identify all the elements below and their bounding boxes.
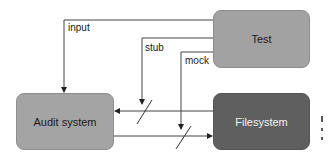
test-node-label: Test xyxy=(251,33,271,45)
test-node: Test xyxy=(213,10,310,68)
audit-system-node-label: Audit system xyxy=(34,116,97,128)
stub-edge-label: stub xyxy=(145,42,164,53)
audit-system-node: Audit system xyxy=(16,93,114,150)
audit-to-fs-break-slash xyxy=(176,126,191,149)
cropped-edge-artifact xyxy=(321,116,323,146)
filesystem-node-label: Filesystem xyxy=(235,116,288,128)
fs-to-audit-break-slash xyxy=(137,100,152,124)
input-edge-label: input xyxy=(68,22,90,33)
filesystem-node: Filesystem xyxy=(213,93,310,150)
mock-edge-label: mock xyxy=(185,55,209,66)
